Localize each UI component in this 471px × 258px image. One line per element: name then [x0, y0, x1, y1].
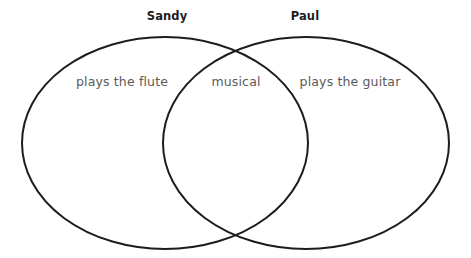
- set-title-paul: Paul: [291, 9, 319, 23]
- set-title-sandy: Sandy: [147, 9, 187, 23]
- region-label-paul-only: plays the guitar: [300, 74, 401, 89]
- region-label-intersection: musical: [211, 74, 260, 89]
- region-label-sandy-only: plays the flute: [76, 74, 168, 89]
- set-ellipse-sandy: [22, 37, 308, 249]
- venn-circles-graphic: [0, 0, 471, 258]
- venn-diagram: Sandy Paul plays the flute musical plays…: [0, 0, 471, 258]
- set-ellipse-paul: [163, 37, 449, 249]
